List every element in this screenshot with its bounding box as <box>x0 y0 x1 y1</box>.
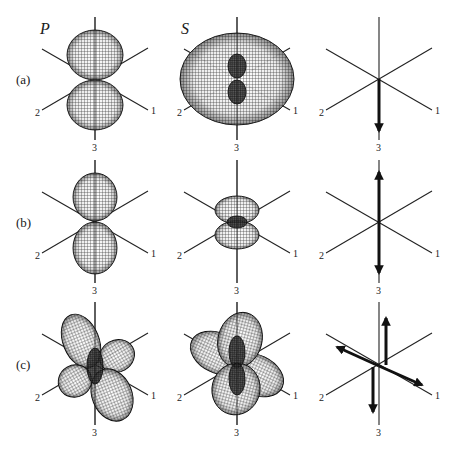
axis-label-1: 1 <box>151 105 156 116</box>
axis-label-1: 1 <box>151 248 156 259</box>
column-header-p: P <box>39 20 50 37</box>
axis-label-2: 2 <box>35 392 40 403</box>
axis-label-3: 3 <box>376 142 381 153</box>
axis-label-2: 2 <box>319 250 324 261</box>
axis-label-3: 3 <box>92 285 97 296</box>
panel-b-s: 213 <box>177 160 298 296</box>
axis-label-1: 1 <box>435 390 440 401</box>
panel-c-p: 213 <box>35 302 156 438</box>
axis-label-2: 2 <box>35 250 40 261</box>
row-label-c: (c) <box>16 357 30 372</box>
force-arrow <box>337 347 379 366</box>
axis-label-3: 3 <box>92 142 97 153</box>
axis-label-2: 2 <box>177 250 182 261</box>
panel-grid: 213213213213213213213213213 <box>35 17 440 438</box>
row-label-b: (b) <box>16 215 31 230</box>
panel-c-s: 213 <box>177 302 298 438</box>
axis-label-3: 3 <box>234 427 239 438</box>
axis-label-3: 3 <box>92 427 97 438</box>
axis-label-3: 3 <box>234 142 239 153</box>
row-labels: (a) (b) (c) <box>16 72 31 372</box>
axis-label-2: 2 <box>319 392 324 403</box>
axis-label-2: 2 <box>35 107 40 118</box>
column-headers: P S <box>39 20 189 37</box>
axis-label-1: 1 <box>293 390 298 401</box>
axis-label-2: 2 <box>177 107 182 118</box>
panel-a-s: 213 <box>177 17 298 153</box>
axis-label-2: 2 <box>177 392 182 403</box>
axis-label-1: 1 <box>151 390 156 401</box>
axis-label-3: 3 <box>234 285 239 296</box>
axis-label-1: 1 <box>435 105 440 116</box>
radiation-pattern-figure: P S (a) (b) (c) 213213213213213213213213… <box>0 0 456 459</box>
axis-label-3: 3 <box>376 285 381 296</box>
panel-a-p: 213 <box>35 17 156 153</box>
axis-label-2: 2 <box>319 107 324 118</box>
panel-b-p: 213 <box>35 160 156 296</box>
axis-label-1: 1 <box>293 105 298 116</box>
coordinate-axes <box>326 302 432 425</box>
force-arrow <box>379 366 422 385</box>
panel-b-source: 213 <box>319 160 440 296</box>
row-label-a: (a) <box>16 72 30 87</box>
panel-a-source: 213 <box>319 17 440 153</box>
axis-label-1: 1 <box>293 248 298 259</box>
panel-c-source: 213 <box>319 302 440 438</box>
column-header-s: S <box>181 20 189 37</box>
axis-label-3: 3 <box>376 427 381 438</box>
wireframe-lobes <box>52 308 140 427</box>
axis-label-1: 1 <box>435 248 440 259</box>
